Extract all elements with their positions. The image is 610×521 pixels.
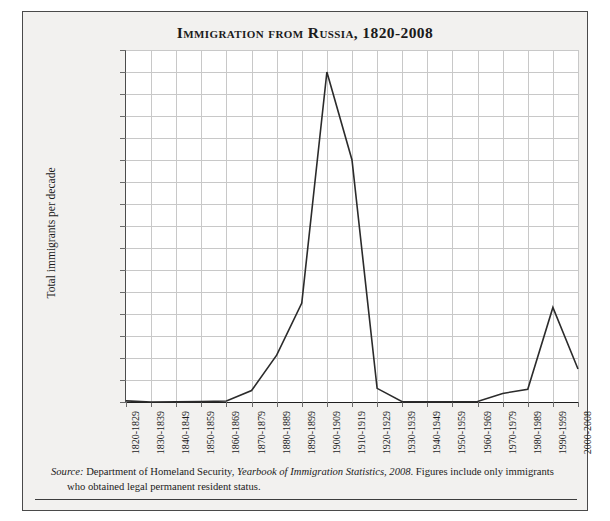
x-tick-label: 1870-1879 — [256, 411, 267, 454]
x-tick-mark — [126, 402, 127, 407]
x-tick-label: 1990-1999 — [557, 411, 568, 454]
x-tick-label: 1950-1959 — [456, 411, 467, 454]
x-tick-mark — [377, 402, 378, 407]
figure-page: Immigration from Russia, 1820-2008 Total… — [0, 0, 610, 521]
figure-frame: Immigration from Russia, 1820-2008 Total… — [22, 11, 588, 511]
x-tick-label: 1960-1969 — [482, 411, 493, 454]
source-note: Source: Department of Homeland Security,… — [51, 464, 563, 495]
x-tick-mark — [478, 402, 479, 407]
x-tick-mark — [402, 402, 403, 407]
x-tick-label: 1860-1869 — [230, 411, 241, 454]
x-tick-label: 1920-1929 — [381, 411, 392, 454]
data-line-series — [126, 50, 578, 402]
x-tick-label: 1900-1909 — [331, 411, 342, 454]
page-title: Immigration from Russia, 1820-2008 — [23, 24, 587, 42]
x-tick-mark — [201, 402, 202, 407]
x-tick-mark — [252, 402, 253, 407]
x-tick-mark — [553, 402, 554, 407]
x-tick-mark — [452, 402, 453, 407]
source-divider — [35, 499, 577, 500]
x-tick-label: 1940-1949 — [431, 411, 442, 454]
source-agency: Department of Homeland Security, — [84, 466, 237, 477]
x-tick-label: 1840-1849 — [180, 411, 191, 454]
plot-area: 1,600,0001,500,0001,400,0001,300,0001,20… — [125, 50, 578, 403]
source-label: Source: — [51, 466, 84, 477]
x-tick-mark — [277, 402, 278, 407]
x-tick-mark — [327, 402, 328, 407]
x-tick-mark — [503, 402, 504, 407]
y-axis-title: Total immigrants per decade — [45, 143, 57, 323]
x-tick-mark — [352, 402, 353, 407]
x-tick-label: 1820-1829 — [130, 411, 141, 454]
x-tick-mark — [578, 402, 579, 407]
x-tick-mark — [302, 402, 303, 407]
x-tick-label: 1970-1979 — [507, 411, 518, 454]
x-tick-mark — [427, 402, 428, 407]
x-tick-label: 1930-1939 — [406, 411, 417, 454]
x-tick-mark — [151, 402, 152, 407]
x-tick-mark — [528, 402, 529, 407]
x-tick-mark — [226, 402, 227, 407]
gridline-vertical — [578, 50, 579, 402]
x-tick-label: 1890-1899 — [306, 411, 317, 454]
x-tick-label: 2000-2008 — [582, 411, 593, 454]
x-tick-label: 1980-1989 — [532, 411, 543, 454]
source-publication: Yearbook of Immigration Statistics, 2008 — [237, 466, 411, 477]
x-tick-label: 1910-1919 — [356, 411, 367, 454]
x-tick-label: 1830-1839 — [155, 411, 166, 454]
x-tick-label: 1850-1859 — [205, 411, 216, 454]
x-tick-label: 1880-1889 — [281, 411, 292, 454]
x-tick-mark — [176, 402, 177, 407]
